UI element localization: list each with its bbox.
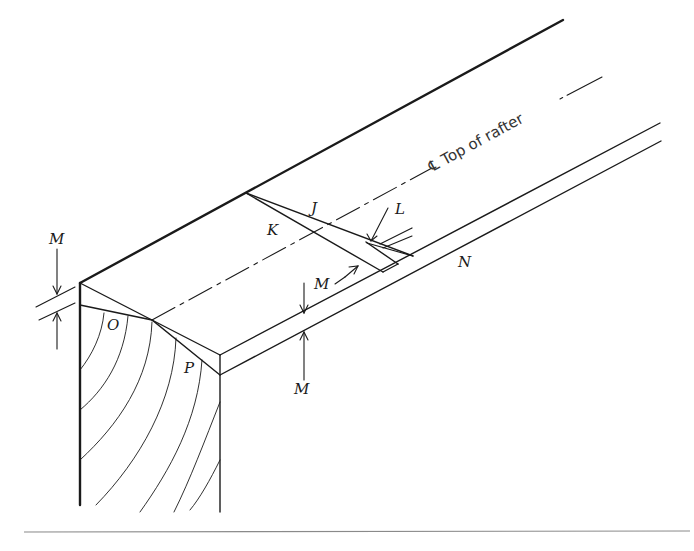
centerline-label: ℄ Top of rafter — [424, 109, 527, 176]
centerline-end — [560, 77, 602, 99]
label-m-mid: M — [313, 275, 330, 293]
rafter-diagram: M O P K J L M M N ℄ Top of rafter — [0, 0, 694, 551]
top-back-edge — [80, 20, 563, 283]
bottom-rule — [24, 531, 690, 532]
label-l: L — [394, 200, 405, 218]
label-p: P — [183, 359, 195, 377]
label-m-bottom: M — [293, 380, 310, 398]
label-n: N — [457, 253, 472, 271]
l-arrow-1 — [371, 208, 388, 241]
label-k: K — [266, 221, 279, 239]
label-o: O — [107, 316, 119, 334]
lower-long-edge — [220, 141, 661, 375]
m-mid-arrow-tail — [335, 277, 345, 284]
m-mid-arrow — [345, 266, 358, 277]
wood-grain — [80, 313, 220, 512]
centerline — [152, 168, 432, 320]
rafter-plumb-2 — [366, 242, 398, 264]
label-m-left: M — [48, 230, 65, 248]
rafter-ext — [380, 228, 412, 244]
label-j: J — [308, 199, 318, 217]
l-arrow-2 — [383, 236, 412, 248]
